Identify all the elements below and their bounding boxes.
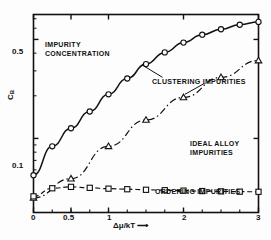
data-point-marker bbox=[162, 50, 167, 55]
y-axis-label-text: C bbox=[6, 94, 15, 100]
data-point-marker bbox=[31, 194, 36, 199]
x-axis-label: Δμ/kT ⟶ bbox=[113, 221, 148, 230]
y-tick-label-1: 0.1 bbox=[12, 161, 23, 170]
data-point-marker bbox=[106, 186, 111, 191]
x-tick-label-3: 2 bbox=[182, 213, 186, 222]
chart-plot-area bbox=[0, 0, 271, 240]
data-point-marker bbox=[256, 189, 261, 194]
data-point-marker bbox=[68, 126, 73, 131]
x-tick-label-0: 0 bbox=[31, 213, 35, 222]
annotation-impurity-concentration: IMPURITY CONCENTRATION bbox=[45, 40, 110, 58]
annotation-line-1: IMPURITY bbox=[45, 40, 110, 49]
x-tick-label-2: 1 bbox=[107, 213, 111, 222]
annotation-clustering-impurities: CLUSTERING IMPURITIES bbox=[152, 77, 246, 86]
data-point-marker bbox=[143, 187, 148, 192]
y-tick-label-0: 0.5 bbox=[12, 47, 23, 56]
annotation-ordering-impurities: ORDERING IMPURITIES bbox=[155, 187, 240, 196]
annotation-leader-line bbox=[142, 65, 162, 77]
annotation-line-1: IDEAL ALLOY bbox=[190, 139, 240, 148]
data-point-marker bbox=[106, 92, 111, 97]
annotation-line-2: IMPURITIES bbox=[190, 148, 240, 157]
y-axis-label: CB bbox=[6, 90, 15, 100]
data-point-marker bbox=[125, 187, 130, 192]
x-tick-label-1: 0.5 bbox=[63, 213, 74, 222]
data-point-marker bbox=[200, 32, 205, 37]
annotation-line-1: ORDERING IMPURITIES bbox=[155, 187, 240, 196]
y-axis-label-subscript: B bbox=[9, 90, 15, 94]
data-point-marker bbox=[31, 173, 36, 178]
data-point-marker bbox=[255, 57, 262, 63]
data-point-marker bbox=[218, 27, 223, 32]
annotation-line-1: CLUSTERING IMPURITIES bbox=[152, 77, 246, 86]
x-tick-label-4: 3 bbox=[256, 213, 260, 222]
data-point-marker bbox=[87, 185, 92, 190]
data-point-marker bbox=[87, 109, 92, 114]
data-point-marker bbox=[256, 19, 261, 24]
data-point-marker bbox=[50, 186, 55, 191]
annotation-line-2: CONCENTRATION bbox=[45, 49, 110, 58]
data-point-marker bbox=[68, 184, 73, 189]
data-point-marker bbox=[50, 144, 55, 149]
figure-container: 0.5 0.1 0 0.5 1 2 3 CB Δμ/kT ⟶ IMPURITY … bbox=[0, 0, 271, 240]
annotation-ideal-alloy-impurities: IDEAL ALLOY IMPURITIES bbox=[190, 139, 240, 157]
data-point-marker bbox=[181, 40, 186, 45]
data-point-marker bbox=[237, 22, 242, 27]
data-point-marker bbox=[125, 76, 130, 81]
